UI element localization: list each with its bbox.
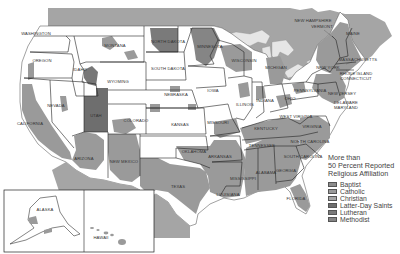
swatch-latter-day-saints [328, 203, 337, 208]
alaska-hawaii-inset [4, 190, 154, 252]
state-label-arizona: ARIZONA [74, 156, 93, 161]
state-label-tennessee: TENNESSEE [249, 143, 275, 148]
state-label-kansas: KANSAS [171, 122, 189, 127]
legend-label: Methodist [340, 216, 369, 223]
state-label-new-hampshire: NEW HAMPSHIRE [294, 18, 331, 23]
state-label-indiana: INDIANA [256, 98, 274, 103]
state-label-kentucky: KENTUCKY [254, 126, 278, 131]
state-label-michigan: MICHIGAN [265, 65, 287, 70]
legend-item-lutheran: Lutheran [328, 209, 400, 216]
state-label-california: CALIFORNIA [17, 121, 43, 126]
state-label-connecticut: CONNECTICUT [340, 76, 372, 81]
state-label-illinois: ILLINOIS [236, 102, 254, 107]
state-label-iowa: IOWA [207, 88, 219, 93]
legend-item-christian: Christian [328, 195, 400, 202]
state-label-louisiana: LOUISIANA [216, 192, 239, 197]
state-label-alabama: ALABAMA [256, 170, 277, 175]
state-label-nebraska: NEBRASKA [164, 92, 188, 97]
state-label-nevada: NEVADA [47, 103, 65, 108]
state-label-texas: TEXAS [171, 184, 185, 189]
legend-label: Christian [340, 195, 367, 202]
legend-label: Baptist [340, 181, 361, 188]
swatch-catholic [328, 189, 337, 194]
legend-label: Lutheran [340, 209, 367, 216]
state-label-virginia: VIRGINIA [302, 124, 321, 129]
state-label-georgia: GEORGIA [276, 168, 296, 173]
state-label-alaska: ALASKA [37, 207, 54, 212]
state-label-maine: MAINE [346, 31, 360, 36]
state-label-mississippi: MISSISSIPPI [230, 176, 256, 181]
state-label-arkansas: ARKANSAS [208, 154, 232, 159]
state-label-new-jersey: NEW JERSEY [328, 91, 356, 96]
state-label-vermont: VERMONT [311, 24, 333, 29]
swatch-lutheran [328, 210, 337, 215]
state-label-washington: WASHINGTON [21, 31, 51, 36]
state-label-oregon: OREGON [32, 58, 51, 63]
legend-list: Baptist Catholic Christian Latter-Day Sa… [328, 181, 400, 223]
state-label-oklahoma: OKLAHOMA [182, 149, 207, 154]
state-label-utah: UTAH [90, 113, 102, 118]
legend-item-latter-day-saints: Latter-Day Saints [328, 202, 400, 209]
state-label-wisconsin: WISCONSIN [231, 58, 256, 63]
state-label-ohio: OHIO [284, 96, 296, 101]
legend-item-catholic: Catholic [328, 188, 400, 195]
state-label-colorado: COLORADO [124, 118, 149, 123]
legend-item-baptist: Baptist [328, 181, 400, 188]
state-label-maryland: MARYLAND [334, 105, 358, 110]
state-label-hawaii: HAWAII [93, 235, 108, 240]
state-label-minnesota: MINNESOTA [197, 44, 223, 49]
state-label-massachusetts: MASSACHUSETTS [339, 57, 378, 62]
state-label-west-virginia: WEST VIRGINIA [280, 114, 313, 119]
state-label-montana: MONTANA [104, 43, 125, 48]
legend-title-line-3: Religious Affiliation [328, 170, 400, 178]
swatch-methodist [328, 217, 337, 222]
state-label-wyoming: WYOMING [107, 79, 129, 84]
state-label-south-carolina: SOUTH CAROLINA [284, 154, 323, 159]
legend: More than 50 Percent Reported Religious … [328, 154, 400, 223]
legend-label: Latter-Day Saints [340, 202, 393, 209]
swatch-christian [328, 196, 337, 201]
state-label-south-dakota: SOUTH DAKOTA [151, 66, 185, 71]
state-label-idaho: IDAHO [73, 67, 87, 72]
state-label-new-mexico: NEW MEXICO [110, 159, 139, 164]
swatch-baptist [328, 182, 337, 187]
state-label-new-york: NEW YORK [316, 65, 340, 70]
legend-label: Catholic [340, 188, 365, 195]
state-label-missouri: MISSOURI [207, 120, 229, 125]
state-label-pennsylvania: PENNSYLVANIA [294, 88, 327, 93]
state-label-north-carolina: NORTH CAROLINA [291, 139, 330, 144]
state-label-north-dakota: NORTH DAKOTA [151, 39, 185, 44]
state-label-florida: FLORIDA [287, 196, 306, 201]
legend-item-methodist: Methodist [328, 216, 400, 223]
